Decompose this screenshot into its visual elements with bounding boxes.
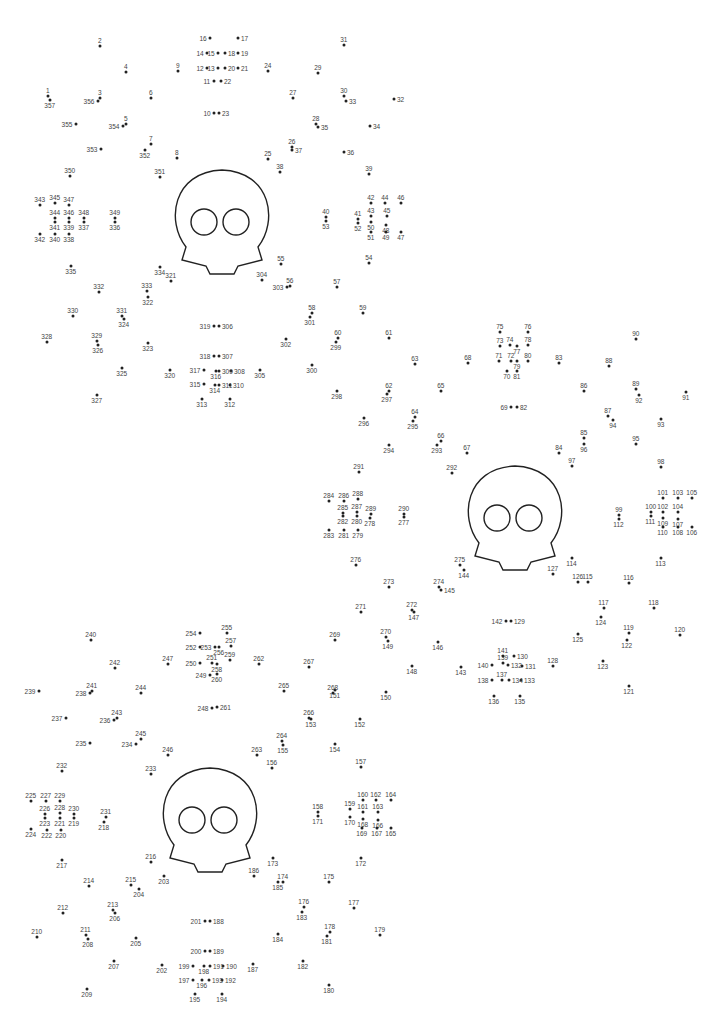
dot-label-80: 80 [524,352,531,359]
dot-label-97: 97 [568,457,575,464]
dot-176 [303,906,306,909]
dot-label-22: 22 [224,78,231,85]
dot-label-244: 244 [135,684,146,691]
dot-label-142: 142 [492,618,503,625]
dot-label-74: 74 [506,336,513,343]
dot-104 [677,511,680,514]
dot-label-262: 262 [253,655,264,662]
dot-68 [467,362,470,365]
dot-162 [375,799,378,802]
dot-label-11: 11 [203,78,210,85]
dot-349 [114,217,117,220]
dot-label-317: 317 [190,367,201,374]
dot-label-169: 169 [356,830,367,837]
dot-214 [88,885,91,888]
dot-label-280: 280 [351,518,362,525]
dot-179 [379,934,382,937]
dot-351 [159,176,162,179]
dot-354 [122,125,125,128]
dot-55 [280,263,283,266]
dot-label-25: 25 [264,150,271,157]
dot-label-83: 83 [555,354,562,361]
dot-44 [384,202,387,205]
dot-label-115: 115 [582,573,592,580]
dot-234 [135,743,138,746]
dot-label-57: 57 [333,278,340,285]
dot-label-88: 88 [605,357,612,364]
dot-99 [618,514,621,517]
dot-13 [217,67,220,70]
dot-228 [59,812,62,815]
dot-label-140: 140 [478,662,489,669]
dot-label-221: 221 [54,820,65,827]
dot-label-112: 112 [613,521,623,528]
dot-label-16: 16 [199,35,206,42]
dot-label-268: 268 [327,684,338,691]
dot-label-183: 183 [296,914,307,921]
dot-58 [311,312,314,315]
dot-label-330: 330 [67,307,78,314]
dot-117 [603,607,606,610]
dot-label-141: 141 [497,647,508,654]
dot-label-55: 55 [277,255,284,262]
dot-21 [237,67,240,70]
dot-label-222: 222 [41,832,52,839]
dot-label-286: 286 [338,492,349,499]
dot-250 [199,662,202,665]
dot-label-235: 235 [76,740,87,747]
dot-189 [209,950,212,953]
dot-label-2: 2 [98,37,102,44]
dot-231 [105,816,108,819]
dot-label-78: 78 [524,336,531,343]
dot-label-310: 310 [233,382,244,389]
dot-175 [328,881,331,884]
dot-label-283: 283 [323,532,334,539]
dot-158 [317,811,320,814]
dot-262 [258,663,261,666]
dot-label-54: 54 [365,254,372,261]
dot-24 [267,70,270,73]
dot-label-329: 329 [91,332,102,339]
dot-label-129: 129 [514,618,525,625]
dot-273 [388,586,391,589]
dot-27 [292,97,295,100]
dot-label-241: 241 [86,682,97,689]
dot-label-155: 155 [277,747,288,754]
dot-label-345: 345 [49,194,60,201]
dot-label-58: 58 [308,304,315,311]
dot-label-31: 31 [340,36,347,43]
dot-label-63: 63 [411,355,418,362]
dot-label-26: 26 [288,138,295,145]
dot-285 [342,512,345,515]
dot-label-100: 100 [645,503,656,510]
dot-label-153: 153 [305,721,316,728]
dot-label-308: 308 [234,368,245,375]
dot-213 [112,909,115,912]
dot-label-272: 272 [406,601,417,608]
dot-333 [146,290,149,293]
dot-label-38: 38 [276,163,283,170]
dot-label-205: 205 [130,940,141,947]
dot-label-103: 103 [672,489,683,496]
dot-225 [30,800,33,803]
dot-label-285: 285 [337,504,348,511]
dot-label-250: 250 [186,660,197,667]
dot-label-247: 247 [162,655,173,662]
dot-label-229: 229 [54,792,65,799]
dot-label-160: 160 [357,791,368,798]
dot-label-202: 202 [156,967,167,974]
dot-label-101: 101 [657,489,668,496]
dot-200 [204,950,207,953]
dot-label-201: 201 [191,918,202,925]
dot-label-176: 176 [298,898,309,905]
dot-label-315: 315 [190,381,201,388]
dot-label-349: 349 [109,209,120,216]
dot-label-332: 332 [93,283,104,290]
dot-label-346: 346 [63,209,74,216]
dot-label-128: 128 [547,657,558,664]
dot-39 [368,173,371,176]
dot-64 [414,416,417,419]
dot-71 [498,360,501,363]
dot-41 [357,218,360,221]
dot-label-191: 191 [213,963,224,970]
